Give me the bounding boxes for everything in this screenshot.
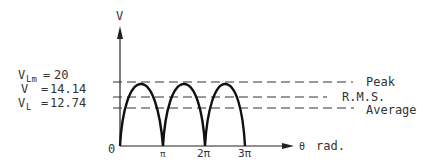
average-label: Average — [366, 103, 417, 117]
x-axis-symbol: θ — [299, 141, 305, 152]
svg-text:12.74: 12.74 — [50, 96, 86, 110]
rectified-wave — [120, 84, 245, 146]
rms-label: R.M.S. — [342, 90, 385, 104]
y-axis-label: V — [116, 9, 123, 23]
svg-text:20: 20 — [54, 68, 68, 82]
peak-label: Peak — [366, 75, 396, 89]
svg-text:=: = — [41, 96, 48, 110]
tick-pi: π — [160, 149, 166, 159]
svg-text:V: V — [21, 82, 28, 96]
waveform-diagram: V θ rad. 0 π 2π 3π Peak R.M.S. Average V… — [0, 0, 423, 166]
svg-text:=: = — [41, 82, 48, 96]
y-axis-arrow-icon — [117, 26, 123, 39]
equation-v: V = 14.14 — [21, 82, 86, 96]
origin-label: 0 — [108, 142, 115, 156]
svg-text:14.14: 14.14 — [50, 82, 86, 96]
svg-text:=: = — [43, 68, 50, 82]
svg-text:V: V — [18, 96, 25, 110]
svg-text:L: L — [26, 102, 31, 112]
x-axis-unit: rad. — [316, 139, 345, 153]
tick-2pi: 2π — [197, 147, 211, 160]
equation-vl: V L = 12.74 — [18, 96, 86, 112]
x-axis-arrow-icon — [282, 143, 294, 149]
tick-3pi: 3π — [238, 147, 252, 160]
svg-text:V: V — [18, 68, 25, 82]
